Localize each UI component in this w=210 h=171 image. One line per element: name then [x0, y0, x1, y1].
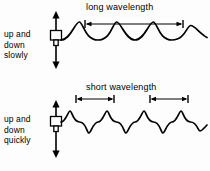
wave-long — [61, 22, 207, 40]
source-marker-slow — [51, 31, 62, 46]
measure-arrow-short-1 — [76, 95, 114, 103]
measure-arrow-long — [85, 20, 183, 28]
source-marker-quick — [51, 117, 62, 132]
measure-arrow-short-2 — [150, 95, 188, 103]
wave-artwork — [0, 0, 210, 171]
wave-short — [61, 111, 207, 133]
wave-wavelength-figure: up and down slowly up and down quickly l… — [0, 0, 210, 171]
